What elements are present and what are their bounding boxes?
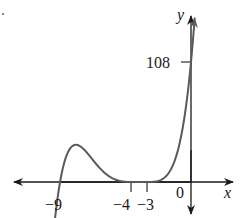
stray-dot [2,13,4,15]
y-axis-label: y [175,6,185,24]
tick-label-neg9: −9 [45,196,62,213]
polynomial-curve [55,19,195,218]
tick-label-neg4: −4 [113,196,130,213]
x-axis-label: x [223,184,231,201]
tick-label-108: 108 [146,54,170,71]
tick-label-neg3: −3 [137,196,154,213]
origin-label: 0 [176,184,184,201]
polynomial-graph: y x 108 −9 −4 −3 0 [0,0,251,218]
